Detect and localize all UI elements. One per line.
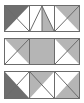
row-1 <box>4 5 80 32</box>
row3-cell1-triangle <box>5 72 29 98</box>
row2-cell1-triangle <box>5 39 29 64</box>
row2-cell1 <box>5 39 30 64</box>
pattern-canvas <box>0 0 84 103</box>
row1-cell1-triangle <box>5 6 29 31</box>
row1-cell2 <box>30 6 55 31</box>
row3-cell2 <box>30 72 55 98</box>
row3-cell2-triangle <box>30 72 54 98</box>
row1-cell1 <box>5 6 30 31</box>
row2-cell3-triangle <box>55 39 79 64</box>
row2-cell3 <box>55 39 79 64</box>
row-2 <box>4 38 80 65</box>
row1-cell3 <box>55 6 79 31</box>
row2-cell2-fill <box>30 39 54 64</box>
row2-cell2 <box>30 39 55 64</box>
row3-cell3-triangle <box>55 72 79 98</box>
row-3 <box>4 71 80 99</box>
row3-cell1 <box>5 72 30 98</box>
row1-cell3-triangle <box>55 6 79 31</box>
row3-cell3 <box>55 72 79 98</box>
